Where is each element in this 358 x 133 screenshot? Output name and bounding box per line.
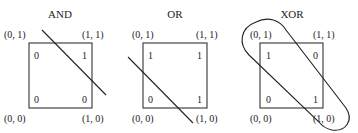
logic-gates-diagram: AND (0, 1) (1, 1) (0, 0) (1, 0) 0 1 0 0 … bbox=[0, 0, 358, 133]
value-top-right: 1 bbox=[197, 50, 202, 61]
value-bottom-right: 0 bbox=[82, 94, 87, 105]
corner-label-bottom-left: (0, 0) bbox=[4, 113, 26, 125]
value-top-left: 1 bbox=[148, 50, 153, 61]
value-top-right: 1 bbox=[82, 50, 87, 61]
panel-title: OR bbox=[167, 8, 183, 20]
value-bottom-left: 0 bbox=[266, 94, 271, 105]
panel-or: OR (0, 1) (1, 1) (0, 0) (1, 0) 1 1 0 1 bbox=[128, 8, 218, 125]
corner-label-top-right: (1, 1) bbox=[313, 29, 335, 41]
value-top-right: 0 bbox=[313, 50, 318, 61]
corner-label-bottom-left: (0, 0) bbox=[132, 113, 154, 125]
panel-and: AND (0, 1) (1, 1) (0, 0) (1, 0) 0 1 0 0 bbox=[4, 8, 106, 125]
corner-label-top-left: (0, 1) bbox=[4, 29, 26, 41]
value-bottom-left: 0 bbox=[34, 94, 39, 105]
corner-label-top-right: (1, 1) bbox=[82, 29, 104, 41]
corner-label-top-right: (1, 1) bbox=[196, 29, 218, 41]
panel-xor: XOR (0, 1) (1, 1) (0, 0) (1, 0) 1 0 0 1 bbox=[242, 8, 349, 130]
value-bottom-right: 1 bbox=[313, 94, 318, 105]
corner-label-bottom-right: (1, 0) bbox=[82, 113, 104, 125]
corner-label-top-left: (0, 1) bbox=[132, 29, 154, 41]
corner-label-bottom-right: (1, 0) bbox=[196, 113, 218, 125]
value-top-left: 0 bbox=[34, 50, 39, 61]
corner-label-top-left: (0, 1) bbox=[250, 29, 272, 41]
panel-title: XOR bbox=[280, 8, 304, 20]
value-bottom-right: 1 bbox=[197, 94, 202, 105]
value-bottom-left: 0 bbox=[148, 94, 153, 105]
value-top-left: 1 bbox=[266, 50, 271, 61]
panel-title: AND bbox=[48, 8, 72, 20]
corner-label-bottom-left: (0, 0) bbox=[250, 113, 272, 125]
